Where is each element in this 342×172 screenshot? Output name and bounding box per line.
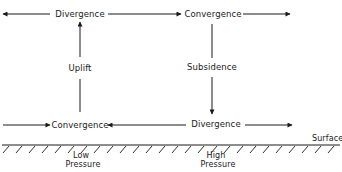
uplift-label: Uplift — [68, 63, 91, 73]
surface-label: Surface — [312, 134, 342, 144]
upper-convergence-label: Convergence — [184, 9, 241, 19]
diagram-graphics — [0, 0, 342, 172]
upper-divergence-label: Divergence — [55, 9, 104, 19]
lower-divergence-label: Divergence — [191, 119, 240, 129]
circulation-diagram: Divergence Convergence Uplift Subsidence… — [0, 0, 342, 172]
ground-hatching — [3, 146, 334, 153]
low-pressure-label: Pressure — [66, 160, 101, 170]
lower-convergence-label: Convergence — [51, 120, 108, 130]
high-pressure-label: Pressure — [201, 160, 236, 170]
subsidence-label: Subsidence — [187, 62, 237, 72]
